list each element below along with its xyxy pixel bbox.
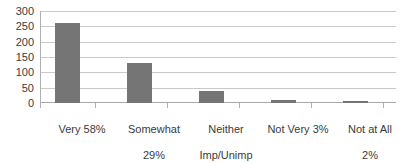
- x-tick-1: [95, 103, 96, 108]
- y-tick-label-150: 150: [16, 51, 34, 63]
- y-tick-label-200: 200: [16, 36, 34, 48]
- x-label-somewhat-line-1: Somewhat: [128, 123, 180, 135]
- x-axis: Very 58% Somewhat 29% Neither Imp/Unimp …: [40, 110, 396, 160]
- x-label-neither-line-2: Imp/Unimp: [199, 149, 252, 161]
- y-tick-label-250: 250: [16, 20, 34, 32]
- x-label-somewhat-line-2: 29%: [143, 149, 165, 161]
- y-tick-label-100: 100: [16, 66, 34, 78]
- y-tick-label-300: 300: [16, 5, 34, 17]
- x-tick-4: [311, 103, 312, 108]
- bar-chart: 300 250 200 150 100 50 0 Ve: [0, 0, 409, 163]
- bars-layer: [40, 11, 396, 103]
- x-tick-2: [167, 103, 168, 108]
- x-label-not-at-all-line-1: Not at All: [348, 123, 392, 135]
- x-tick-0: [40, 103, 41, 108]
- x-axis-ticks: [40, 103, 396, 108]
- y-axis: 300 250 200 150 100 50 0: [0, 0, 38, 105]
- plot-area: [40, 11, 396, 103]
- x-tick-3: [239, 103, 240, 108]
- bar-neither[interactable]: [199, 91, 224, 103]
- bar-somewhat[interactable]: [127, 63, 152, 103]
- y-tick-label-0: 0: [28, 97, 34, 109]
- x-label-not-at-all: Not at All 2%: [328, 110, 409, 162]
- y-tick-label-50: 50: [22, 82, 34, 94]
- x-label-very-line-1: Very 58%: [58, 123, 105, 135]
- x-label-neither-line-1: Neither: [208, 123, 243, 135]
- x-label-not-very-line-1: Not Very 3%: [267, 123, 328, 135]
- x-tick-5: [383, 103, 384, 108]
- x-label-not-at-all-line-2: 2%: [362, 149, 378, 161]
- bar-very[interactable]: [55, 23, 80, 103]
